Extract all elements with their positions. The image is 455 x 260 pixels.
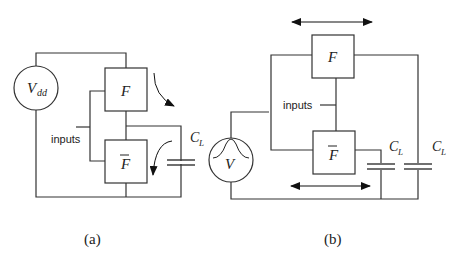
capacitor-cl-b-1: C L [366, 139, 403, 170]
panel-a: V dd F F inputs C L (a) [14, 53, 204, 248]
block-f-a: F [105, 68, 147, 111]
block-fbar-a: F [105, 140, 147, 183]
caption-b: (b) [324, 231, 342, 248]
vdd-source: V dd [14, 66, 58, 110]
pulse-source: V [209, 138, 253, 182]
inputs-label-b: inputs [283, 99, 313, 111]
block-f-label: F [327, 49, 338, 65]
cl-subscript: L [440, 147, 446, 157]
cl-subscript: L [397, 147, 403, 157]
wire-top-a [36, 53, 126, 68]
block-fbar-label: F [328, 147, 339, 163]
block-fbar-b: F [313, 131, 355, 174]
circuit-diagram: V dd F F inputs C L (a) [0, 0, 455, 260]
capacitor-cl-b-2: C L [403, 139, 446, 170]
cl-subscript: L [198, 138, 204, 148]
inputs-bracket-a [90, 91, 105, 161]
curved-arrow-discharging-icon [153, 141, 172, 175]
wire-source-top-b [231, 112, 269, 138]
inputs-label-a: inputs [51, 133, 81, 145]
block-fbar-label: F [120, 156, 131, 172]
vdd-subscript: dd [37, 87, 48, 98]
curved-arrow-charging-icon [154, 73, 174, 106]
block-f-b: F [312, 35, 354, 78]
block-f-label: F [120, 83, 131, 99]
panel-b: V F F inputs C L C L [209, 22, 446, 248]
caption-a: (a) [84, 231, 101, 248]
capacitor-cl-a: C L [167, 130, 204, 165]
wire-fbar-right-b [355, 150, 381, 199]
